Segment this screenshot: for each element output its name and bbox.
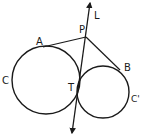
label-p: P [79,24,85,35]
label-t: T [67,82,75,93]
circle-c-prime [77,66,129,118]
label-c-prime: C' [131,94,140,104]
label-b: B [124,62,131,73]
label-a: A [36,36,43,47]
label-l: L [94,10,100,21]
circle-c [12,46,80,114]
segment-pa [43,37,86,47]
tangent-circles-diagram: L P A B C T C' [0,0,143,137]
label-c: C [2,75,9,86]
segment-pb [86,37,120,70]
